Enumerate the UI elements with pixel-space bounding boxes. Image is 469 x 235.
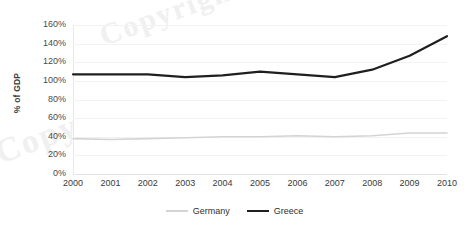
y-axis-tick-label: 80% <box>26 95 66 104</box>
x-axis-ticks: 2000200120022003200420052006200720082009… <box>73 178 447 192</box>
gridline <box>73 174 447 175</box>
series-line-greece <box>73 36 447 77</box>
y-axis-tick-label: 60% <box>26 113 66 122</box>
y-axis-tick-label: 40% <box>26 132 66 141</box>
legend-label-germany: Germany <box>193 206 230 216</box>
x-axis-tick-label: 2010 <box>427 178 467 188</box>
x-axis-tick-label: 2000 <box>53 178 93 188</box>
legend-item-greece[interactable]: Greece <box>247 206 304 216</box>
x-axis-tick-label: 2002 <box>128 178 168 188</box>
series-layer <box>73 25 447 174</box>
y-axis-tick-label: 20% <box>26 150 66 159</box>
x-axis-tick-label: 2007 <box>315 178 355 188</box>
legend-label-greece: Greece <box>274 206 304 216</box>
legend-item-germany[interactable]: Germany <box>166 206 230 216</box>
x-axis-tick-label: 2009 <box>390 178 430 188</box>
y-axis-tick-label: 160% <box>26 20 66 29</box>
legend-line-icon-germany <box>166 210 188 212</box>
y-axis-tick-label: 0% <box>26 169 66 178</box>
y-axis-tick-label: 120% <box>26 57 66 66</box>
plot-area <box>73 25 447 174</box>
chart-legend: Germany Greece <box>0 206 469 216</box>
x-axis-tick-label: 2005 <box>240 178 280 188</box>
x-axis-tick-label: 2006 <box>277 178 317 188</box>
x-axis-tick-label: 2008 <box>352 178 392 188</box>
series-line-germany <box>73 133 447 140</box>
x-axis-tick-label: 2001 <box>90 178 130 188</box>
y-axis-tick-label: 100% <box>26 76 66 85</box>
legend-line-icon-greece <box>247 210 269 213</box>
x-axis-tick-label: 2003 <box>165 178 205 188</box>
y-axis-title: % of GDP <box>12 63 22 123</box>
y-axis-tick-label: 140% <box>26 39 66 48</box>
x-axis-tick-label: 2004 <box>203 178 243 188</box>
line-chart: Copyright Copy % of GDP 160%140%120%100%… <box>0 0 469 235</box>
